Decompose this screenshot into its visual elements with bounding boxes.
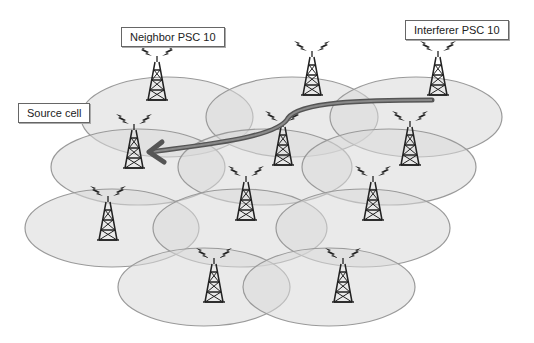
cell-coverage-ellipse xyxy=(243,248,415,326)
neighbor-psc-label: Neighbor PSC 10 xyxy=(121,27,225,47)
interferer-psc-label: Interferer PSC 10 xyxy=(405,20,509,40)
cell-coverage-layer xyxy=(25,77,502,326)
source-cell-label: Source cell xyxy=(18,103,90,123)
cell-network-diagram xyxy=(0,0,534,343)
